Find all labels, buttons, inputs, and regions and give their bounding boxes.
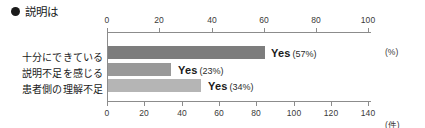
bottom-axis-tick-label-20: 20	[139, 108, 149, 118]
plot-area: 0 20 40 60 80 100 0 20 40 60 80 100 120 …	[107, 32, 371, 102]
bottom-axis-tick-0	[107, 102, 108, 106]
bar-value-0: Yes(57%)	[271, 47, 317, 59]
top-axis-unit-label: (%)	[385, 47, 398, 57]
bottom-axis-unit-label: (件)	[385, 118, 400, 128]
chart-title-text: 説明は	[25, 3, 59, 19]
bar-answer-word-2: Yes	[208, 80, 228, 92]
bottom-axis-tick-120	[331, 102, 332, 106]
top-axis-tick-label-100: 100	[361, 15, 375, 25]
bar-0	[108, 46, 265, 59]
bottom-axis-tick-label-0: 0	[105, 108, 110, 118]
bar-answer-word-1: Yes	[178, 64, 198, 76]
bottom-axis-tick-80	[256, 102, 257, 106]
bottom-axis-tick-label-100: 100	[287, 108, 301, 118]
bottom-axis-tick-label-140: 140	[361, 108, 375, 118]
bar-row-0: Yes(57%)	[108, 46, 372, 59]
category-label-1: 説明不足を感じる	[22, 65, 103, 80]
top-axis-tick-label-40: 40	[207, 15, 217, 25]
top-axis-tick-label-0: 0	[105, 15, 110, 25]
top-axis-tick-label-80: 80	[311, 15, 321, 25]
top-axis-tick-20	[159, 28, 160, 32]
bottom-axis-tick-label-60: 60	[214, 108, 224, 118]
bar-value-1: Yes(23%)	[178, 64, 224, 76]
bottom-axis-tick-20	[144, 102, 145, 106]
chart-title: 説明は	[11, 3, 59, 19]
bar-row-2: Yes(34%)	[108, 79, 372, 92]
top-axis-tick-0	[107, 28, 108, 32]
bottom-axis-tick-100	[294, 102, 295, 106]
bottom-axis-tick-140	[368, 102, 369, 106]
top-axis-line	[107, 32, 371, 33]
filled-circle-bullet-icon	[11, 7, 20, 16]
top-axis-tick-label-20: 20	[154, 15, 164, 25]
bar-value-2: Yes(34%)	[208, 80, 254, 92]
bottom-axis-tick-label-40: 40	[177, 108, 187, 118]
bar-percent-0: (57%)	[293, 49, 317, 59]
top-axis-tick-label-60: 60	[259, 15, 269, 25]
chart-screenshot: 説明は 十分にできている 説明不足を感じる 患者側の理解不足 0 20 40 6…	[0, 0, 425, 128]
top-axis-tick-80	[316, 28, 317, 32]
bottom-axis-tick-60	[219, 102, 220, 106]
category-label-2: 患者側の理解不足	[22, 81, 103, 96]
bottom-axis-tick-label-120: 120	[324, 108, 338, 118]
bar-percent-2: (34%)	[230, 82, 254, 92]
category-label-0: 十分にできている	[22, 49, 103, 64]
top-axis-tick-100	[368, 28, 369, 32]
bar-1	[108, 63, 171, 76]
bar-percent-1: (23%)	[200, 66, 224, 76]
bar-answer-word-0: Yes	[271, 47, 291, 59]
bottom-axis-tick-40	[182, 102, 183, 106]
top-axis-tick-60	[264, 28, 265, 32]
bar-2	[108, 79, 201, 92]
top-axis-tick-40	[212, 28, 213, 32]
category-axis-labels: 十分にできている 説明不足を感じる 患者側の理解不足	[0, 32, 103, 102]
bar-row-1: Yes(23%)	[108, 63, 372, 76]
bottom-axis-tick-label-80: 80	[251, 108, 261, 118]
